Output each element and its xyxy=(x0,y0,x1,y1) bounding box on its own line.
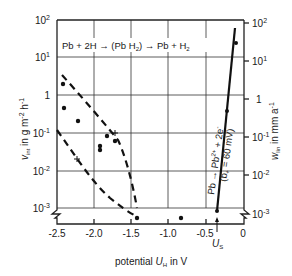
y2-tick-1e1: 101 xyxy=(252,55,267,67)
x-axis-label: potential UH in V xyxy=(115,256,188,268)
x-tick: -1.5 xyxy=(122,228,140,239)
data-point xyxy=(215,209,219,213)
x-tick: 0 xyxy=(240,228,246,239)
y2-tick-1e-1: 10-1 xyxy=(252,131,269,143)
reaction-hydrogen-annotation: Pb + 2H → (Pb H2) → Pb + H2 xyxy=(62,40,190,52)
tafel-line xyxy=(217,28,235,211)
y-axis-left-ticks: 102 101 1 10-1 10-2 10-3 xyxy=(33,14,51,214)
data-points-crosses xyxy=(74,130,118,162)
svg-text:US: US xyxy=(212,238,223,250)
y-axis-left-label: vint in g m-2 h-1 xyxy=(18,98,31,160)
y-tick-1e-1: 10-1 xyxy=(33,127,50,139)
data-point xyxy=(234,41,238,45)
x-tick: -2.5 xyxy=(48,228,66,239)
y2-tick-1e-3: 10-3 xyxy=(252,208,269,220)
y-tick-1e2: 102 xyxy=(35,14,50,26)
y-tick-1e-2: 10-2 xyxy=(33,165,50,177)
y-tick-1e-3: 10-3 xyxy=(33,202,50,214)
y-axis-right-ticks: 102 101 1 10-1 10-2 10-3 xyxy=(252,17,269,220)
y2-tick-1e0: 1 xyxy=(256,94,262,105)
y2-tick-1e-2: 10-2 xyxy=(252,169,269,181)
y-tick-1e0: 1 xyxy=(44,90,50,101)
x-tick: -1.0 xyxy=(159,228,177,239)
y-tick-1e1: 101 xyxy=(35,51,50,63)
y2-tick-1e2: 102 xyxy=(252,17,267,29)
us-marker: US xyxy=(212,217,223,250)
data-point xyxy=(225,109,229,113)
chart: 102 101 1 10-1 10-2 10-3 102 101 1 10-1 … xyxy=(0,0,292,276)
y-axis-right-label: wlin in mm a-1 xyxy=(268,102,281,160)
lower-dashed-curve xyxy=(57,130,136,216)
x-tick: -2.0 xyxy=(85,228,103,239)
